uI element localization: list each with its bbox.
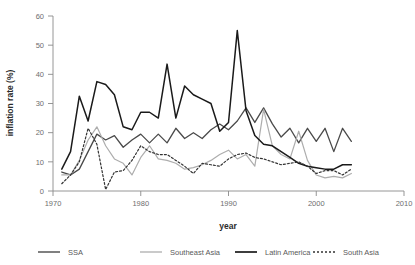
x-tick-label: 1980 — [132, 199, 149, 208]
y-tick-label: 0 — [40, 187, 44, 196]
x-tick-label: 1990 — [220, 199, 237, 208]
y-axis-ticks: 0102030405060 — [36, 12, 53, 196]
series-line-southeast-asia — [62, 109, 352, 178]
legend-label-ssa[interactable]: SSA — [68, 248, 83, 257]
y-axis-title: inflation rate (%) — [5, 70, 15, 137]
x-tick-label: 1970 — [45, 199, 62, 208]
x-tick-label: 2010 — [396, 199, 413, 208]
data-series-group — [62, 31, 352, 190]
y-tick-label: 60 — [36, 12, 44, 21]
y-tick-label: 20 — [36, 128, 44, 137]
series-line-ssa — [62, 108, 352, 175]
chart-legend: SSASoutheast AsiaLatin AmericaSouth Asia — [38, 248, 380, 257]
x-axis-ticks: 19701980199020002010 — [45, 191, 413, 208]
x-axis: 19701980199020002010 — [45, 191, 413, 208]
x-tick-label: 2000 — [308, 199, 325, 208]
x-axis-title: year — [219, 221, 237, 231]
inflation-rate-line-chart: 0102030405060 19701980199020002010 year … — [0, 0, 415, 265]
y-tick-label: 30 — [36, 99, 44, 108]
series-line-latin-america — [62, 31, 352, 170]
legend-label-latin-america[interactable]: Latin America — [265, 248, 311, 257]
series-line-south-asia — [62, 128, 352, 189]
y-tick-label: 50 — [36, 41, 44, 50]
y-tick-label: 40 — [36, 70, 44, 79]
legend-label-southeast-asia[interactable]: Southeast Asia — [170, 248, 221, 257]
legend-label-south-asia[interactable]: South Asia — [343, 248, 380, 257]
chart-canvas: 0102030405060 19701980199020002010 year … — [0, 0, 415, 265]
y-tick-label: 10 — [36, 158, 44, 167]
y-axis: 0102030405060 — [36, 12, 53, 196]
